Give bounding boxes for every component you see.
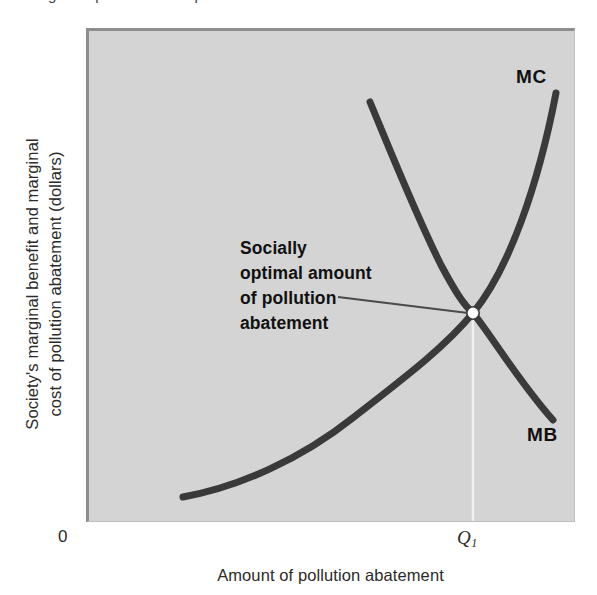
figure-caption-remnant: Finding the optimal level of pollution a… [6, 0, 306, 4]
mc-curve-label: MC [516, 66, 547, 88]
annotation-line-4: abatement [240, 311, 410, 336]
mb-curve-label: MB [527, 424, 558, 446]
annotation-line-1: Socially [240, 236, 410, 261]
figure-container: Finding the optimal level of pollution a… [0, 0, 597, 595]
origin-label: 0 [58, 527, 67, 547]
q1-symbol: Q [457, 527, 471, 548]
y-axis-title-line-2: cost of pollution abatement (dollars) [44, 64, 67, 504]
q1-subscript: 1 [471, 536, 478, 550]
optimal-point-annotation: Socially optimal amount of pollution aba… [240, 236, 410, 336]
y-axis-title: Society's marginal benefit and marginal … [21, 64, 67, 504]
x-axis-tick-label-q1: Q1 [457, 527, 478, 549]
x-axis-title: Amount of pollution abatement [86, 566, 575, 585]
annotation-line-2: optimal amount [240, 261, 410, 286]
y-axis-title-line-1: Society's marginal benefit and marginal [21, 64, 44, 504]
annotation-line-3: of pollution [240, 286, 410, 311]
